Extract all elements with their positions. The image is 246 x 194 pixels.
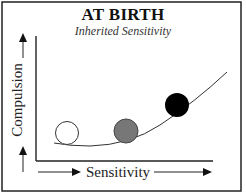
y-axis-label: Compulsion bbox=[9, 60, 27, 140]
diagram-title: AT BIRTH bbox=[0, 5, 246, 25]
white-ball-icon bbox=[56, 122, 79, 145]
x-axis-label: Sensitivity bbox=[83, 164, 153, 181]
diagram-panel: AT BIRTH Inherited Sensitivity Compulsio… bbox=[0, 0, 246, 194]
up-arrow-bottom-icon bbox=[19, 146, 27, 172]
black-ball-icon bbox=[165, 93, 189, 117]
diagram-subtitle: Inherited Sensitivity bbox=[0, 24, 246, 39]
sensitivity-curve bbox=[54, 72, 227, 146]
right-arrow-right-icon bbox=[154, 168, 212, 176]
gray-ball-icon bbox=[114, 119, 138, 143]
right-arrow-left-icon bbox=[38, 168, 81, 176]
